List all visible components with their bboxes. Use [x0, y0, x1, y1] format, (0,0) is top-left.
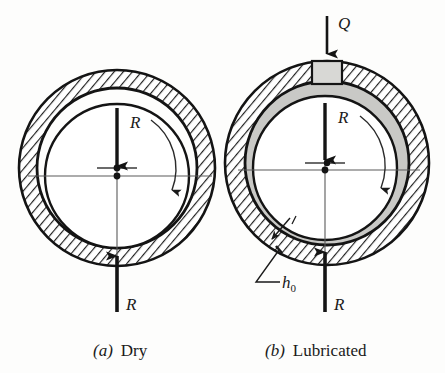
- oil-inlet-port-lub: [312, 61, 342, 84]
- flow-label-lub: Q: [338, 14, 350, 33]
- caption-lubricated: (b)Lubricated: [265, 341, 367, 360]
- bearing-center-point-lub: [324, 160, 330, 166]
- caption-dry: (a)Dry: [93, 341, 148, 360]
- journal-center-point-lub: [322, 167, 329, 174]
- load-label-dry: R: [129, 113, 141, 132]
- reaction-label-dry: R: [125, 295, 137, 314]
- journal-bearing-figure: R R Q: [0, 0, 445, 373]
- reaction-label-lub: R: [333, 295, 345, 314]
- load-label-lub: R: [337, 108, 349, 127]
- journal-center-point-dry: [114, 173, 121, 180]
